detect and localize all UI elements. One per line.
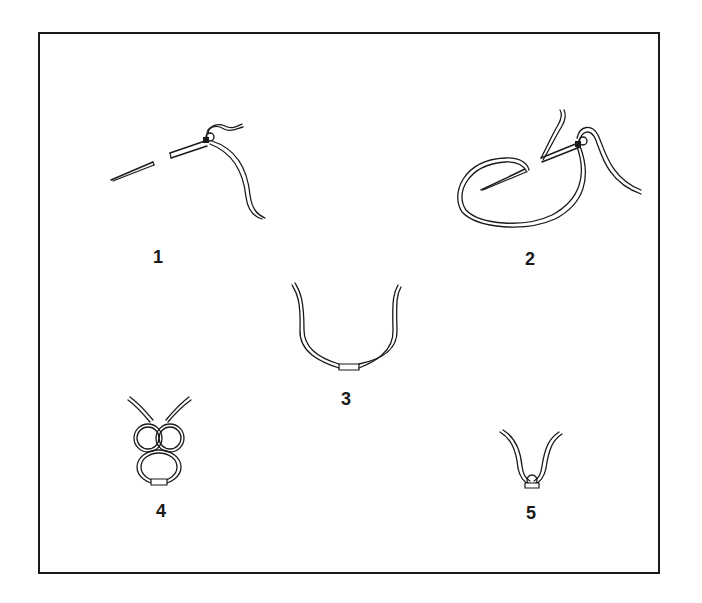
step-3-u-thread-illustration [292, 283, 401, 370]
step-2-needle-loop-illustration [458, 110, 641, 227]
step-3-label: 3 [341, 389, 351, 410]
step-1-label: 1 [153, 247, 163, 268]
step-4-double-knot-illustration [128, 397, 191, 485]
step-4-label: 4 [156, 501, 166, 522]
step-1-needle-illustration [111, 124, 265, 219]
illustration-canvas [0, 0, 702, 603]
step-5-label: 5 [526, 503, 536, 524]
step-2-label: 2 [525, 249, 535, 270]
step-5-tight-knot-illustration [500, 430, 562, 488]
